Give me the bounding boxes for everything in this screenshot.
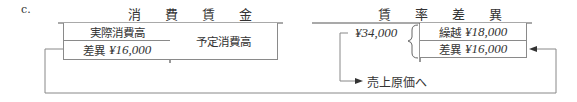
row-amount: ¥16,000: [465, 41, 507, 57]
row-amount: ¥16,000: [109, 42, 151, 58]
arrow-left-icon: [529, 46, 537, 52]
left-credit-row-planned: 予定消費高: [170, 23, 278, 60]
left-account-title: 消 費 賃 金: [128, 4, 262, 23]
right-debit-total: ¥34,000: [355, 25, 397, 41]
row-amount: ¥18,000: [465, 24, 507, 40]
left-debit-row-variance: 差異 ¥16,000: [63, 40, 171, 60]
right-credit-row-carryover: 繰越 ¥18,000: [420, 23, 527, 41]
item-label: c.: [21, 3, 31, 16]
row-label: 予定消費高: [196, 33, 251, 49]
row-label: 差異: [83, 42, 105, 58]
left-debit-row-actual: 実際消費高: [63, 23, 171, 41]
right-credit-row-variance: 差異 ¥16,000: [420, 40, 527, 58]
row-label: 繰越: [439, 24, 461, 40]
row-label: 差異: [439, 41, 461, 57]
right-account-title: 賃 率 差 異: [378, 4, 512, 23]
arrow-right-icon: [355, 78, 363, 84]
row-label: 実際消費高: [90, 24, 145, 40]
cost-of-sales-label: 売上原価へ: [367, 73, 427, 90]
